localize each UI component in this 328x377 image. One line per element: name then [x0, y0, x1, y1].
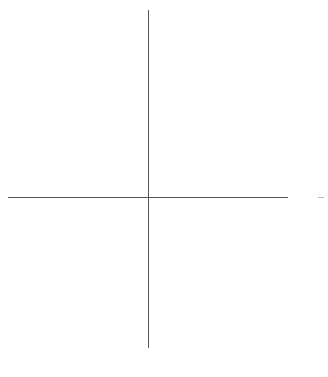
horizontal-axis-line — [8, 197, 288, 198]
diagram-canvas — [0, 0, 328, 377]
right-tick-mark — [318, 197, 324, 198]
vertical-axis-line — [148, 10, 149, 348]
